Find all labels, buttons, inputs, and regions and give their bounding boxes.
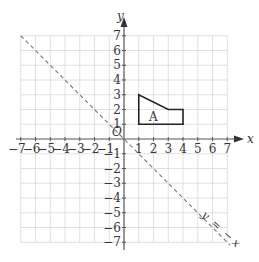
x-tick-label: 3	[164, 142, 172, 156]
y-tick-label: −1	[103, 147, 121, 161]
y-tick-label: 2	[113, 103, 121, 117]
y-tick-label: 4	[113, 73, 121, 87]
y-axis-label: y	[116, 9, 124, 23]
line-label: y = − x	[198, 208, 243, 251]
x-tick-label: 5	[194, 142, 202, 156]
x-axis-arrow-icon	[234, 136, 244, 143]
y-tick-label: −7	[103, 235, 121, 249]
y-tick-label: 5	[113, 58, 121, 72]
coordinate-plane: x y O −7−6−5−4−3−2−112345677654321−1−2−3…	[0, 0, 259, 262]
y-tick-label: −3	[103, 176, 121, 190]
line-y-equals-neg-x	[21, 36, 230, 245]
x-tick-label: 1	[135, 142, 143, 156]
y-tick-label: 1	[113, 117, 121, 131]
y-tick-label: 7	[113, 29, 121, 43]
x-tick-label: 4	[179, 142, 187, 156]
y-tick-label: 3	[113, 88, 121, 102]
x-tick-label: 7	[223, 142, 231, 156]
y-tick-label: −2	[103, 162, 121, 176]
x-tick-label: 2	[150, 142, 158, 156]
y-tick-label: −4	[103, 191, 121, 205]
axes: x y O	[16, 9, 254, 250]
y-tick-label: −6	[103, 221, 121, 235]
y-tick-label: −5	[103, 206, 121, 220]
y-tick-label: 6	[113, 44, 121, 58]
x-tick-label: 6	[209, 142, 217, 156]
shape-a-label: A	[148, 110, 158, 124]
x-axis-label: x	[247, 132, 254, 146]
